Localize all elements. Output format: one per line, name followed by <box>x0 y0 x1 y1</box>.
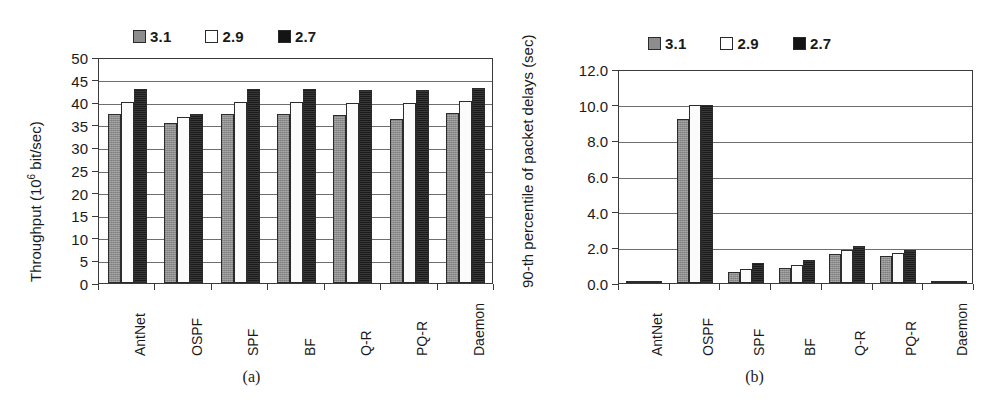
y-axis-tick-label: 50 <box>71 51 88 66</box>
x-axis-tick <box>719 284 720 290</box>
bar <box>177 117 190 283</box>
y-axis-tick-label: 30 <box>71 141 88 156</box>
y-axis-tick <box>92 193 98 194</box>
bar <box>779 268 791 283</box>
y-axis-tick <box>92 58 98 59</box>
x-axis-tick <box>98 284 99 290</box>
x-axis-tick-label: Daemon <box>954 303 970 356</box>
y-axis-tick <box>92 171 98 172</box>
bar <box>689 105 701 283</box>
x-axis-tick <box>618 284 619 290</box>
y-axis-tick-label: 20 <box>71 187 88 202</box>
bar <box>791 265 803 283</box>
bar <box>221 114 234 283</box>
x-axis-tick-label: Daemon <box>471 303 487 356</box>
x-axis-tick-label: AntNet <box>649 313 665 356</box>
bar <box>841 250 853 283</box>
bar <box>121 102 134 283</box>
bar <box>247 89 260 283</box>
y-axis-tick-label: 25 <box>71 164 88 179</box>
y-axis-tick <box>612 105 618 106</box>
bar-group <box>108 59 147 283</box>
y-axis-tick <box>612 212 618 213</box>
y-axis-tick-label: 4.0 <box>587 206 608 221</box>
bar <box>390 119 403 283</box>
y-axis-tick-label: 12.0 <box>579 63 608 78</box>
legend-swatch-gray-icon <box>648 37 661 50</box>
bar <box>892 253 904 283</box>
x-axis-tick-label: PQ-R <box>903 321 919 356</box>
panel-a: 3.1 2.9 2.7 Throughput (106 bit/sec) 051… <box>0 0 503 415</box>
x-axis-tick <box>380 284 381 290</box>
y-axis-tick-label: 0 <box>80 277 88 292</box>
bar <box>333 115 346 283</box>
y-axis-tick <box>92 148 98 149</box>
bar <box>638 281 650 283</box>
bar <box>416 90 429 283</box>
bar <box>472 88 485 283</box>
bar <box>134 89 147 283</box>
bar <box>650 281 662 283</box>
x-axis-tick-label: OSPF <box>700 318 716 356</box>
y-axis-tick <box>92 125 98 126</box>
bar-group <box>880 71 916 283</box>
x-axis-tick <box>669 284 670 290</box>
y-axis-tick-label: 8.0 <box>587 134 608 149</box>
bar <box>829 254 841 283</box>
bars-panel-b <box>619 71 972 283</box>
y-axis-title-panel-b: 90-th percentile of packet delays (sec) <box>519 35 536 288</box>
y-axis-tick <box>92 261 98 262</box>
bar <box>108 114 121 284</box>
legend-label-3-1: 3.1 <box>150 28 171 45</box>
legend-label-2-7: 2.7 <box>295 28 316 45</box>
x-axis-tick <box>872 284 873 290</box>
bar-group <box>626 71 662 283</box>
legend-label-2-9: 2.9 <box>222 28 243 45</box>
bar <box>955 281 967 283</box>
y-axis-tick-label: 15 <box>71 209 88 224</box>
legend-item-2-9: 2.9 <box>720 35 758 52</box>
bar <box>701 105 713 283</box>
bar-group <box>829 71 865 283</box>
legend-label-2-9: 2.9 <box>737 35 758 52</box>
plot-area-panel-a <box>98 58 493 284</box>
y-axis-tick <box>612 70 618 71</box>
legend-item-2-9: 2.9 <box>205 28 243 45</box>
legend-swatch-black-icon <box>278 30 291 43</box>
bar <box>880 256 892 283</box>
bar <box>234 102 247 283</box>
y-axis-tick-label: 35 <box>71 119 88 134</box>
bar <box>277 114 290 284</box>
bar-group <box>446 59 485 283</box>
bar-group <box>221 59 260 283</box>
x-axis-tick <box>154 284 155 290</box>
bar-group <box>164 59 203 283</box>
bar <box>459 101 472 283</box>
legend-label-2-7: 2.7 <box>810 35 831 52</box>
y-axis-tick <box>92 80 98 81</box>
y-axis-tick <box>92 238 98 239</box>
bar <box>853 246 865 283</box>
y-axis-tick <box>92 216 98 217</box>
x-axis-tick-label: OSPF <box>189 318 205 356</box>
y-axis-tick-label: 40 <box>71 96 88 111</box>
legend-item-2-7: 2.7 <box>278 28 316 45</box>
panel-b: 3.1 2.9 2.7 90-th percentile of packet d… <box>503 0 1006 415</box>
figure-two-panel-bar-charts: 3.1 2.9 2.7 Throughput (106 bit/sec) 051… <box>0 0 1006 415</box>
bar-group <box>728 71 764 283</box>
y-axis-tick <box>612 177 618 178</box>
x-axis-tick-label: SPF <box>751 329 767 356</box>
y-axis-tick-label: 10 <box>71 232 88 247</box>
bar-group <box>779 71 815 283</box>
bar-group <box>333 59 372 283</box>
legend-panel-b: 3.1 2.9 2.7 <box>648 35 831 52</box>
legend-swatch-white-icon <box>205 30 218 43</box>
y-axis-tick <box>612 141 618 142</box>
bar <box>728 272 740 283</box>
y-axis-tick-label: 45 <box>71 74 88 89</box>
x-axis-tick <box>973 284 974 290</box>
x-axis-tick-label: Q-R <box>358 330 374 356</box>
bar-group <box>931 71 967 283</box>
bar <box>803 260 815 283</box>
x-axis-tick-label: AntNet <box>132 313 148 356</box>
